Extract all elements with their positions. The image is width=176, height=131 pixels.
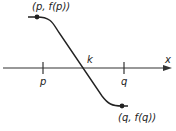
x-axis	[3, 65, 172, 71]
tick-p-label: p	[40, 77, 46, 87]
axis-arrow-icon	[163, 65, 172, 71]
point-q	[120, 104, 125, 109]
point-p	[35, 15, 40, 20]
point-q-label: (q, f(q))	[118, 113, 156, 123]
axis-label: x	[165, 55, 171, 65]
tick-q-label: q	[121, 77, 127, 87]
point-p-label: (p, f(p))	[32, 2, 70, 12]
function-curve	[28, 17, 128, 106]
root-label: k	[87, 55, 93, 65]
